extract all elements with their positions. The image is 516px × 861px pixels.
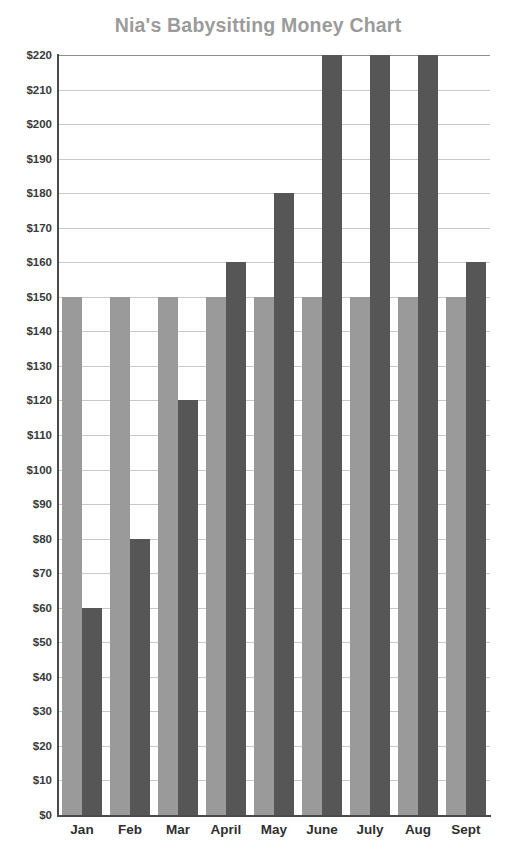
x-tick-label-jan: Jan bbox=[58, 822, 106, 837]
y-tick-label-60: $60 bbox=[4, 602, 52, 614]
bar-may-goal bbox=[254, 297, 274, 815]
y-tick-label-130: $130 bbox=[4, 360, 52, 372]
bar-feb-goal bbox=[110, 297, 130, 815]
x-tick-label-aug: Aug bbox=[394, 822, 442, 837]
y-tick-label-50: $50 bbox=[4, 636, 52, 648]
bar-june-earned bbox=[322, 55, 342, 815]
bar-jan-earned bbox=[82, 608, 102, 815]
y-tick-label-30: $30 bbox=[4, 705, 52, 717]
y-tick-label-160: $160 bbox=[4, 256, 52, 268]
y-tick-label-140: $140 bbox=[4, 325, 52, 337]
bar-july-earned bbox=[370, 55, 390, 815]
bar-april-earned bbox=[226, 262, 246, 815]
plot-area bbox=[58, 55, 490, 815]
y-tick-label-90: $90 bbox=[4, 498, 52, 510]
y-axis-line bbox=[57, 54, 59, 817]
bar-may-earned bbox=[274, 193, 294, 815]
bar-july-goal bbox=[350, 297, 370, 815]
y-tick-label-10: $10 bbox=[4, 774, 52, 786]
bar-jan-goal bbox=[62, 297, 82, 815]
money-bar-chart: Nia's Babysitting Money Chart $220$210$2… bbox=[0, 0, 516, 861]
y-tick-label-110: $110 bbox=[4, 429, 52, 441]
bar-feb-earned bbox=[130, 539, 150, 815]
bar-sept-earned bbox=[466, 262, 486, 815]
y-tick-label-0: $0 bbox=[4, 809, 52, 821]
y-tick-label-120: $120 bbox=[4, 394, 52, 406]
y-axis-tick-labels: $220$210$200$190$180$170$160$150$140$130… bbox=[0, 55, 52, 815]
bar-aug-goal bbox=[398, 297, 418, 815]
y-tick-label-80: $80 bbox=[4, 533, 52, 545]
bar-june-goal bbox=[302, 297, 322, 815]
x-tick-label-april: April bbox=[202, 822, 250, 837]
y-tick-label-170: $170 bbox=[4, 222, 52, 234]
y-tick-label-40: $40 bbox=[4, 671, 52, 683]
y-tick-label-220: $220 bbox=[4, 49, 52, 61]
x-tick-label-may: May bbox=[250, 822, 298, 837]
bars-layer bbox=[58, 55, 490, 815]
x-tick-label-sept: Sept bbox=[442, 822, 490, 837]
bar-april-goal bbox=[206, 297, 226, 815]
y-tick-label-210: $210 bbox=[4, 84, 52, 96]
chart-title: Nia's Babysitting Money Chart bbox=[0, 14, 516, 37]
y-tick-label-150: $150 bbox=[4, 291, 52, 303]
x-axis-line bbox=[57, 815, 491, 817]
x-tick-label-mar: Mar bbox=[154, 822, 202, 837]
y-tick-label-100: $100 bbox=[4, 464, 52, 476]
bar-sept-goal bbox=[446, 297, 466, 815]
x-tick-label-july: July bbox=[346, 822, 394, 837]
bar-mar-earned bbox=[178, 400, 198, 815]
y-tick-label-180: $180 bbox=[4, 187, 52, 199]
bar-aug-earned bbox=[418, 55, 438, 815]
y-tick-label-70: $70 bbox=[4, 567, 52, 579]
bar-mar-goal bbox=[158, 297, 178, 815]
y-tick-label-200: $200 bbox=[4, 118, 52, 130]
x-tick-label-feb: Feb bbox=[106, 822, 154, 837]
y-tick-label-190: $190 bbox=[4, 153, 52, 165]
y-tick-label-20: $20 bbox=[4, 740, 52, 752]
x-tick-label-june: June bbox=[298, 822, 346, 837]
x-axis-tick-labels: JanFebMarAprilMayJuneJulyAugSept bbox=[58, 822, 490, 852]
